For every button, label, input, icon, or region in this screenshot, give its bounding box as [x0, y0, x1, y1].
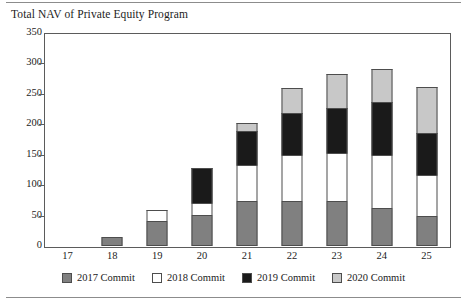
x-axis-tick-label: 24 [362, 250, 402, 261]
y-axis-tick-mark [39, 185, 44, 186]
x-axis-tick-label: 25 [407, 250, 447, 261]
bar-segment[interactable] [192, 203, 213, 215]
legend-item[interactable]: 2019 Commit [242, 272, 315, 283]
stacked-bar[interactable] [371, 69, 392, 246]
stacked-bar[interactable] [147, 210, 168, 247]
y-axis-tick-label: 200 [26, 117, 42, 128]
bar-segment[interactable] [236, 201, 257, 246]
bars-group [45, 33, 449, 246]
bar-segment[interactable] [371, 102, 392, 155]
bar-segment[interactable] [326, 153, 347, 201]
stacked-bar[interactable] [102, 237, 123, 246]
bar-segment[interactable] [236, 131, 257, 165]
bar-segment[interactable] [281, 155, 302, 201]
chart-figure: Total NAV of Private Equity Program 0501… [0, 0, 467, 301]
bar-slot [404, 33, 449, 246]
y-axis-tick-mark [39, 124, 44, 125]
y-axis-tick-label: 250 [26, 87, 42, 98]
bar-slot [135, 33, 180, 246]
bar-segment[interactable] [147, 210, 168, 222]
bar-segment[interactable] [326, 201, 347, 246]
y-axis-tick-mark [39, 63, 44, 64]
legend-label: 2020 Commit [347, 272, 405, 283]
bar-segment[interactable] [416, 175, 437, 216]
y-axis-tick-label: 300 [26, 56, 42, 67]
stacked-bar[interactable] [281, 88, 302, 246]
legend-item[interactable]: 2020 Commit [332, 272, 405, 283]
chart-title: Total NAV of Private Equity Program [11, 8, 188, 20]
x-axis-tick-label: 21 [227, 250, 267, 261]
legend-item[interactable]: 2017 Commit [62, 272, 135, 283]
bar-segment[interactable] [281, 201, 302, 246]
bar-segment[interactable] [281, 88, 302, 114]
legend-item[interactable]: 2018 Commit [152, 272, 225, 283]
y-axis-tick-label: 0 [37, 239, 42, 250]
bar-slot [269, 33, 314, 246]
legend-label: 2019 Commit [257, 272, 315, 283]
bar-segment[interactable] [147, 221, 168, 246]
bar-segment[interactable] [326, 74, 347, 107]
bar-segment[interactable] [192, 215, 213, 246]
y-axis-tick-mark [39, 216, 44, 217]
legend-label: 2018 Commit [167, 272, 225, 283]
stacked-bar[interactable] [326, 74, 347, 246]
bar-slot [314, 33, 359, 246]
y-axis-tick-mark [39, 94, 44, 95]
x-axis-tick-label: 17 [47, 250, 87, 261]
bar-segment[interactable] [102, 237, 123, 246]
figure-bottom-rule [6, 297, 461, 298]
figure-top-rule [6, 2, 461, 3]
x-axis-tick-label: 18 [92, 250, 132, 261]
legend-swatch [152, 273, 162, 283]
plot-wrapper: 050100150200250300350 171819202122232425 [0, 26, 467, 258]
bar-slot [359, 33, 404, 246]
x-axis-tick-label: 23 [317, 250, 357, 261]
y-axis-tick-label: 100 [26, 178, 42, 189]
y-axis-tick-label: 150 [26, 148, 42, 159]
y-axis-tick-mark [39, 155, 44, 156]
legend-swatch [332, 273, 342, 283]
bar-segment[interactable] [281, 113, 302, 154]
bar-slot [225, 33, 270, 246]
bar-segment[interactable] [326, 108, 347, 153]
legend-swatch [242, 273, 252, 283]
y-axis-tick: 0 [0, 246, 52, 247]
bar-segment[interactable] [192, 168, 213, 203]
stacked-bar[interactable] [192, 168, 213, 246]
bar-segment[interactable] [416, 133, 437, 175]
legend-swatch [62, 273, 72, 283]
bar-slot [180, 33, 225, 246]
bar-slot [45, 33, 90, 246]
bar-segment[interactable] [416, 87, 437, 133]
bar-slot [90, 33, 135, 246]
legend-label: 2017 Commit [77, 272, 135, 283]
bar-segment[interactable] [371, 155, 392, 208]
bar-segment[interactable] [236, 123, 257, 131]
chart-legend: 2017 Commit2018 Commit2019 Commit2020 Co… [0, 272, 467, 283]
bar-segment[interactable] [236, 165, 257, 201]
x-axis-tick-label: 20 [182, 250, 222, 261]
x-axis-tick-label: 19 [137, 250, 177, 261]
bar-segment[interactable] [416, 216, 437, 246]
x-axis-tick-label: 22 [272, 250, 312, 261]
stacked-bar[interactable] [416, 87, 437, 246]
stacked-bar[interactable] [236, 123, 257, 246]
bar-segment[interactable] [371, 69, 392, 102]
y-axis-tick-label: 50 [32, 209, 43, 220]
bar-segment[interactable] [371, 208, 392, 246]
y-axis-tick-label: 350 [26, 26, 42, 37]
